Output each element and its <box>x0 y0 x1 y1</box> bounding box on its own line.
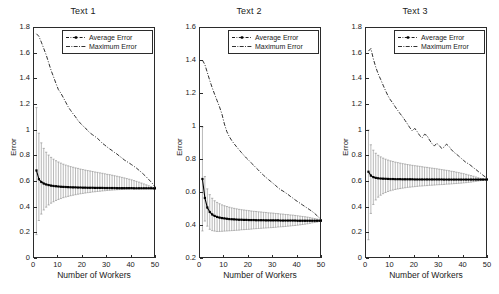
legend-item-maximum-error[interactable]: Maximum Error <box>231 42 315 51</box>
y-tick-mark <box>366 27 369 28</box>
x-tick-mark <box>321 255 322 258</box>
y-tick-label: 1.2 <box>8 99 30 108</box>
y-tick-label: 0.6 <box>8 176 30 185</box>
legend-swatch-average-error-icon <box>65 33 87 42</box>
y-tick-label: 1.2 <box>340 99 362 108</box>
y-tick-mark <box>366 181 369 182</box>
y-tick-mark <box>34 27 37 28</box>
y-tick-mark <box>366 78 369 79</box>
legend-label-average-error: Average Error <box>87 34 132 41</box>
y-tick-mark <box>34 181 37 182</box>
x-tick-mark <box>106 255 107 258</box>
legend-swatch-maximum-error-icon <box>65 42 87 51</box>
legend-item-average-error[interactable]: Average Error <box>231 33 315 42</box>
panel-text-3: Text 3 00.20.40.60.811.21.41.61.80102030… <box>332 0 498 294</box>
x-tick-mark <box>389 255 390 258</box>
y-tick-mark <box>366 104 369 105</box>
y-tick-label: 0.6 <box>340 176 362 185</box>
y-tick-mark <box>366 130 369 131</box>
legend-label-maximum-error: Maximum Error <box>87 43 137 50</box>
legend-3[interactable]: Average ErrorMaximum Error <box>394 30 485 54</box>
x-tick-label: 30 <box>97 260 115 269</box>
x-tick-mark <box>365 255 366 258</box>
x-tick-mark <box>155 255 156 258</box>
y-tick-label: 1.8 <box>8 22 30 31</box>
y-tick-mark <box>200 159 203 160</box>
y-axis-label: Error <box>9 138 18 156</box>
x-tick-label: 40 <box>122 260 140 269</box>
y-tick-label: 0.4 <box>174 220 196 229</box>
x-tick-mark <box>463 255 464 258</box>
x-tick-label: 40 <box>288 260 306 269</box>
y-axis-label: Error <box>341 138 350 156</box>
maximum-error-line-3 <box>368 49 488 180</box>
y-tick-mark <box>200 192 203 193</box>
error-bars-2 <box>201 127 322 231</box>
x-tick-label: 50 <box>478 260 496 269</box>
y-tick-mark <box>366 53 369 54</box>
x-tick-label: 10 <box>214 260 232 269</box>
y-tick-mark <box>366 207 369 208</box>
y-tick-mark <box>366 232 369 233</box>
y-tick-mark <box>34 78 37 79</box>
y-axis-label: Error <box>175 138 184 156</box>
legend-item-average-error[interactable]: Average Error <box>65 33 149 42</box>
y-tick-mark <box>34 207 37 208</box>
figure-container: Text 1 00.20.40.60.811.21.41.61.80102030… <box>0 0 499 294</box>
y-tick-mark <box>200 225 203 226</box>
maximum-error-line-2 <box>202 60 322 220</box>
legend-swatch-average-error-icon <box>231 33 253 42</box>
panel-text-1: Text 1 00.20.40.60.811.21.41.61.80102030… <box>0 0 166 294</box>
legend-item-maximum-error[interactable]: Maximum Error <box>397 42 481 51</box>
y-tick-mark <box>200 27 203 28</box>
x-tick-mark <box>487 255 488 258</box>
x-tick-label: 10 <box>48 260 66 269</box>
plot-area-3 <box>365 27 487 258</box>
y-tick-label: 0.6 <box>174 187 196 196</box>
plot-canvas-1 <box>34 28 156 259</box>
y-tick-label: 1.6 <box>340 48 362 57</box>
legend-label-average-error: Average Error <box>253 34 298 41</box>
error-bars-1 <box>35 108 156 235</box>
x-tick-mark <box>272 255 273 258</box>
plot-area-2 <box>199 27 321 258</box>
x-tick-mark <box>438 255 439 258</box>
x-tick-mark <box>248 255 249 258</box>
x-tick-mark <box>223 255 224 258</box>
y-tick-label: 1.4 <box>174 55 196 64</box>
x-axis-label: Number of Workers <box>199 270 321 280</box>
x-tick-label: 0 <box>24 260 42 269</box>
plot-area-1 <box>33 27 155 258</box>
x-tick-label: 50 <box>146 260 164 269</box>
x-tick-mark <box>297 255 298 258</box>
x-tick-mark <box>57 255 58 258</box>
y-tick-label: 1.2 <box>174 88 196 97</box>
legend-item-average-error[interactable]: Average Error <box>397 33 481 42</box>
x-tick-mark <box>414 255 415 258</box>
legend-item-maximum-error[interactable]: Maximum Error <box>65 42 149 51</box>
legend-2[interactable]: Average ErrorMaximum Error <box>228 30 319 54</box>
legend-1[interactable]: Average ErrorMaximum Error <box>62 30 153 54</box>
y-tick-label: 1 <box>174 121 196 130</box>
y-tick-mark <box>34 130 37 131</box>
y-tick-mark <box>366 155 369 156</box>
y-tick-label: 0.2 <box>340 227 362 236</box>
y-tick-label: 1.8 <box>340 22 362 31</box>
x-tick-label: 30 <box>263 260 281 269</box>
error-bars-3 <box>367 130 488 240</box>
y-tick-mark <box>366 258 369 259</box>
x-tick-label: 20 <box>73 260 91 269</box>
y-tick-mark <box>34 258 37 259</box>
x-tick-label: 50 <box>312 260 330 269</box>
x-axis-label: Number of Workers <box>33 270 155 280</box>
panel-text-2: Text 2 0.20.40.60.811.21.41.601020304050… <box>166 0 332 294</box>
legend-swatch-average-error-icon <box>397 33 419 42</box>
x-tick-label: 20 <box>239 260 257 269</box>
y-tick-label: 0.4 <box>340 202 362 211</box>
panel-title-3: Text 3 <box>332 6 498 16</box>
y-tick-label: 1.6 <box>8 48 30 57</box>
y-tick-label: 1.6 <box>174 22 196 31</box>
panel-title-1: Text 1 <box>0 6 166 16</box>
x-tick-mark <box>199 255 200 258</box>
y-tick-label: 0.2 <box>8 227 30 236</box>
